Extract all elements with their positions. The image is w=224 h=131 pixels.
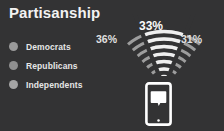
- tablet-with-speech-bubble-icon: [145, 82, 172, 126]
- legend-item-republicans[interactable]: Republicans: [9, 56, 109, 75]
- partisanship-infographic: Partisanship Democrats Republicans Indep…: [0, 0, 224, 131]
- device-svg: [145, 82, 172, 126]
- legend-dot-icon: [9, 42, 18, 51]
- home-button: [157, 119, 160, 122]
- legend-dot-icon: [9, 61, 18, 70]
- legend-item-label: Republicans: [26, 61, 78, 71]
- percent-label-center: 33%: [139, 19, 163, 33]
- legend-item-label: Democrats: [26, 42, 71, 52]
- page-title: Partisanship: [9, 4, 100, 21]
- percent-label-left: 36%: [96, 33, 117, 45]
- legend-dot-icon: [9, 80, 18, 89]
- legend-item-label: Independents: [26, 80, 82, 90]
- legend: Democrats Republicans Independents: [9, 37, 109, 94]
- legend-item-independents[interactable]: Independents: [9, 75, 109, 94]
- speech-bubble-glyph: [151, 91, 167, 106]
- legend-item-democrats[interactable]: Democrats: [9, 37, 109, 56]
- percent-label-right: 31%: [181, 33, 202, 45]
